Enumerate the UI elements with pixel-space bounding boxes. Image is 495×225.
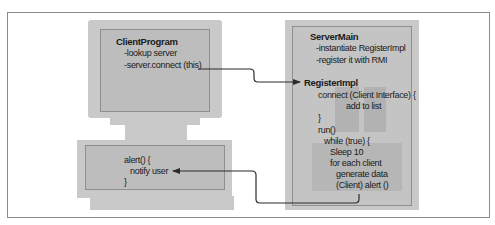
alert-arrow bbox=[173, 171, 359, 203]
connection-arrows bbox=[0, 0, 495, 225]
connect-arrow bbox=[198, 69, 300, 82]
